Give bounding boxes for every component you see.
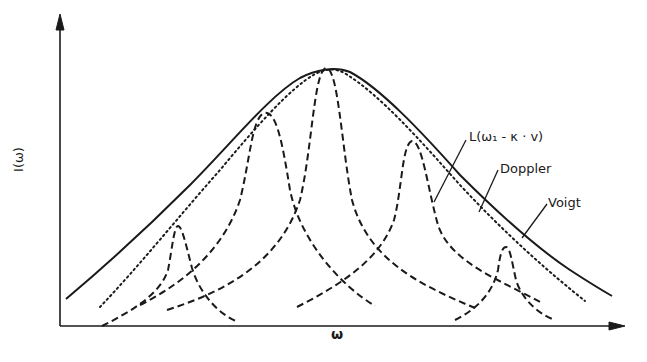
leader-lorentzian (434, 140, 466, 202)
leader-voigt (522, 204, 547, 238)
leader-lines (434, 140, 547, 238)
leader-doppler (479, 170, 498, 212)
x-axis-arrow-icon (609, 322, 625, 330)
x-axis-label: ω (331, 326, 343, 342)
doppler-label: Doppler (500, 161, 551, 176)
y-axis-label: I(ω) (11, 147, 26, 172)
lorentzian-peak-2 (140, 113, 375, 306)
voigt-profile-diagram (0, 0, 647, 362)
voigt-label: Voigt (548, 195, 581, 210)
lorentzian-curves (102, 68, 555, 326)
doppler-curve (100, 70, 585, 308)
lorentzian-label: L(ω₁ - κ · v) (469, 129, 543, 144)
lorentzian-peak-1 (102, 226, 238, 326)
y-axis-arrow-icon (56, 14, 64, 30)
